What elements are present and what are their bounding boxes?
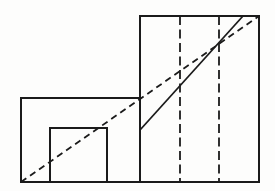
tall-right-rectangle [140,16,259,182]
geometry-figure [0,0,275,191]
solid-diagonal-line [140,16,243,130]
diagram-page [0,0,275,191]
